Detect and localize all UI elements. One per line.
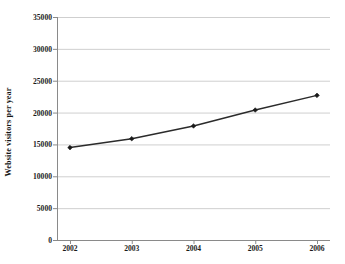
data-point-marker	[315, 93, 320, 98]
series-line	[70, 95, 317, 147]
data-point-marker	[191, 124, 196, 129]
x-axis-tick-label: 2005	[235, 244, 275, 253]
data-point-marker	[129, 136, 134, 141]
x-axis-tick-label: 2004	[174, 244, 214, 253]
line-chart: Website visitors per year 05000100001500…	[0, 0, 345, 264]
data-point-marker	[253, 108, 258, 113]
x-axis-tick-label: 2006	[297, 244, 337, 253]
data-point-marker	[68, 145, 73, 150]
plot-area	[0, 0, 345, 264]
x-axis-tick-label: 2003	[112, 244, 152, 253]
x-axis-tick-label: 2002	[50, 244, 90, 253]
